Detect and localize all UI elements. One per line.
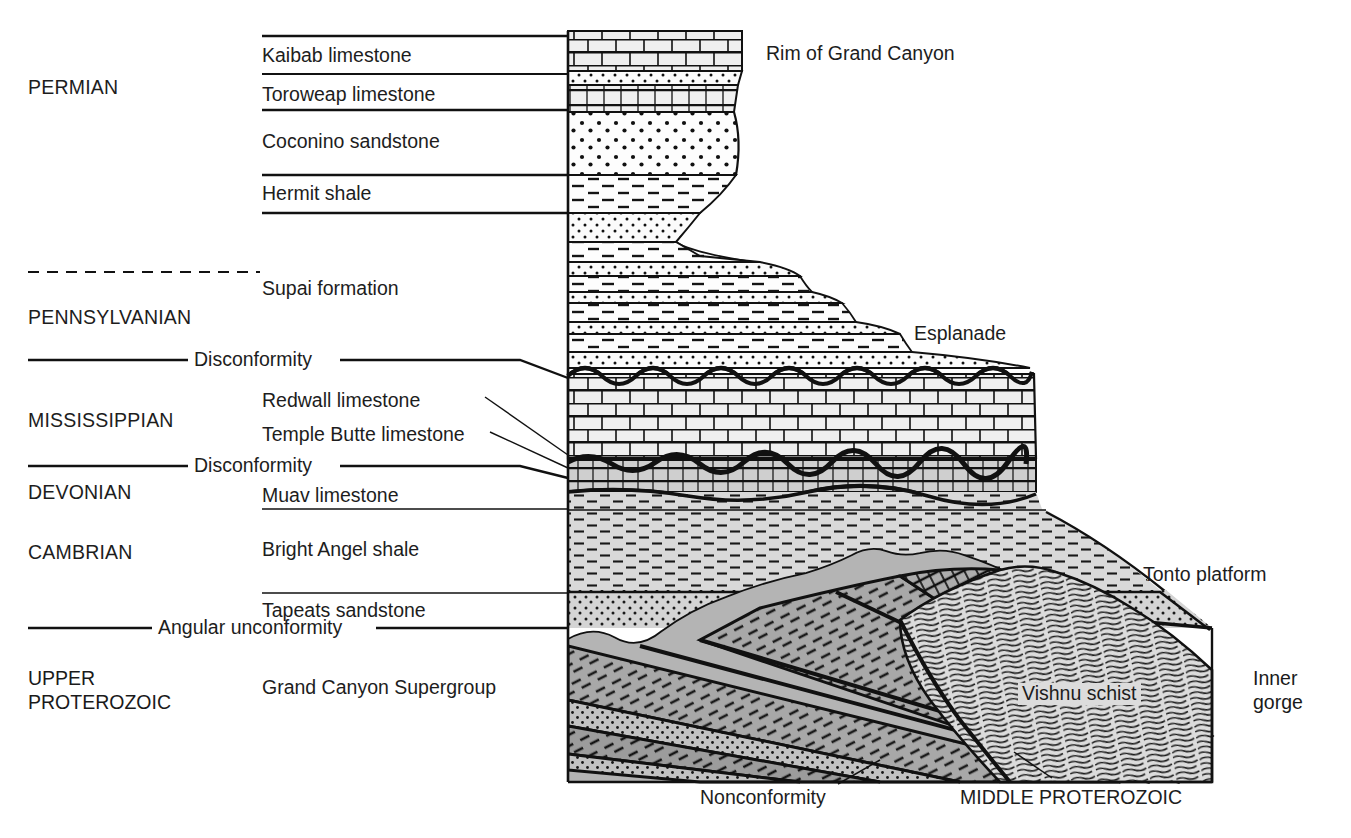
era-label-pennsylvanian: PENNSYLVANIAN (28, 308, 191, 328)
formation-label-toroweap: Toroweap limestone (262, 85, 435, 105)
formation-label-redwall: Redwall limestone (262, 391, 420, 411)
era-label-upper-proterozoic: UPPER PROTEROZOIC (28, 666, 171, 714)
unconformity-label-disconformity-upper: Disconformity (194, 350, 312, 370)
formation-label-grand-canyon-supergroup: Grand Canyon Supergroup (262, 678, 496, 698)
formation-label-bright-angel: Bright Angel shale (262, 540, 419, 560)
formation-label-kaibab: Kaibab limestone (262, 46, 412, 66)
era-label-permian: PERMIAN (28, 78, 118, 98)
diagram-canvas: PERMIAN PENNSYLVANIAN MISSISSIPPIAN DEVO… (0, 0, 1351, 838)
formation-label-hermit: Hermit shale (262, 184, 371, 204)
era-label-cambrian: CAMBRIAN (28, 543, 133, 563)
layer-redwall (568, 368, 1036, 458)
era-label-mississippian: MISSISSIPPIAN (28, 411, 174, 431)
feature-label-rim-of-grand-canyon: Rim of Grand Canyon (766, 44, 955, 64)
layer-coconino (568, 112, 739, 175)
era-label-devonian: DEVONIAN (28, 483, 131, 503)
unconformity-label-nonconformity: Nonconformity (700, 788, 826, 808)
unconformity-label-angular-unconformity: Angular unconformity (158, 618, 342, 638)
layer-supai (568, 213, 1030, 368)
unconformity-label-disconformity-lower: Disconformity (194, 456, 312, 476)
layer-toroweap (568, 85, 738, 112)
layer-hermit (568, 175, 736, 213)
feature-label-tonto-platform: Tonto platform (1143, 565, 1267, 585)
layer-kaibab-base-conglomerate (568, 71, 742, 85)
layer-kaibab (568, 31, 742, 71)
leader-lines (262, 36, 568, 593)
formation-label-coconino: Coconino sandstone (262, 132, 440, 152)
formation-label-supai: Supai formation (262, 279, 399, 299)
feature-label-vishnu-schist: Vishnu schist (1018, 683, 1141, 705)
feature-label-middle-proterozoic: MIDDLE PROTEROZOIC (960, 788, 1182, 808)
formation-label-muav: Muav limestone (262, 486, 399, 506)
feature-label-esplanade: Esplanade (914, 324, 1006, 344)
feature-label-inner-gorge: Inner gorge (1253, 666, 1303, 714)
cross-section-figure (0, 0, 1351, 838)
formation-label-temple-butte: Temple Butte limestone (262, 425, 465, 445)
